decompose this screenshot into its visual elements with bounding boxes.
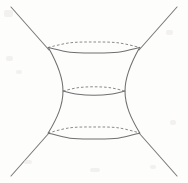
bottom-cross-section-front-arc	[48, 133, 140, 139]
top-cross-section-front-arc	[48, 48, 140, 54]
asymptote-bottom-left-line	[11, 133, 49, 176]
asymptote-bottom-right-line	[139, 133, 177, 176]
waist-cross-section	[63, 87, 125, 95]
left-hyperbola-profile	[49, 48, 64, 133]
bottom-cross-section-back-arc	[48, 127, 140, 133]
top-cross-section	[48, 42, 140, 53]
asymptote-top-right-line	[139, 7, 177, 50]
waist-cross-section-front-arc	[63, 91, 125, 95]
hyperboloid-diagram-canvas	[0, 0, 188, 183]
waist-cross-section-back-arc	[63, 87, 125, 91]
profile-curve-group	[49, 48, 140, 133]
bottom-cross-section	[48, 127, 140, 139]
hyperboloid-figure: Hyperboloid of one sheet Line drawing of…	[0, 0, 188, 183]
asymptote-group	[11, 7, 177, 176]
top-cross-section-back-arc	[48, 42, 140, 48]
asymptote-top-left-line	[11, 7, 49, 50]
right-hyperbola-profile	[125, 48, 140, 133]
